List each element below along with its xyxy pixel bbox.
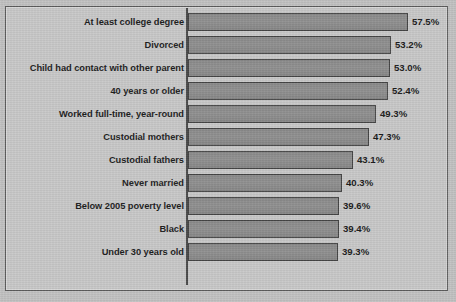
bar bbox=[188, 36, 391, 54]
bar-category-label: Below 2005 poverty level bbox=[75, 197, 184, 215]
bar-category-label: At least college degree bbox=[84, 13, 184, 31]
bar-chart-figure: At least college degree57.5%Divorced53.2… bbox=[0, 0, 456, 302]
bar-track bbox=[188, 105, 376, 123]
bar-track bbox=[188, 36, 391, 54]
bar-track bbox=[188, 128, 369, 146]
bar-row: Worked full-time, year-round49.3% bbox=[0, 105, 456, 128]
bar-row: Divorced53.2% bbox=[0, 36, 456, 59]
bar bbox=[188, 82, 388, 100]
bar bbox=[188, 13, 408, 31]
bar bbox=[188, 151, 353, 169]
bar-track bbox=[188, 243, 338, 261]
bar-row: Black39.4% bbox=[0, 220, 456, 243]
category-axis-line bbox=[186, 8, 188, 285]
bar-value-label: 43.1% bbox=[357, 151, 384, 169]
bar-value-label: 47.3% bbox=[373, 128, 400, 146]
bar-value-label: 53.2% bbox=[395, 36, 422, 54]
bar-value-label: 40.3% bbox=[346, 174, 373, 192]
bar-row: Custodial fathers43.1% bbox=[0, 151, 456, 174]
bar-value-label: 39.6% bbox=[343, 197, 370, 215]
bar-track bbox=[188, 174, 342, 192]
bar-track bbox=[188, 151, 353, 169]
bar-category-label: Under 30 years old bbox=[102, 243, 184, 261]
bar-track bbox=[188, 82, 388, 100]
bar-category-label: Black bbox=[159, 220, 184, 238]
bar-value-label: 52.4% bbox=[392, 82, 419, 100]
bar-row: 40 years or older52.4% bbox=[0, 82, 456, 105]
bar bbox=[188, 197, 339, 215]
bar bbox=[188, 128, 369, 146]
bars-area: At least college degree57.5%Divorced53.2… bbox=[0, 0, 456, 302]
bar bbox=[188, 174, 342, 192]
bar-row: Never married40.3% bbox=[0, 174, 456, 197]
bar bbox=[188, 105, 376, 123]
bar-track bbox=[188, 13, 408, 31]
bar-category-label: Child had contact with other parent bbox=[30, 59, 184, 77]
bar-category-label: Custodial mothers bbox=[103, 128, 184, 146]
bar-category-label: Worked full-time, year-round bbox=[59, 105, 184, 123]
bar-category-label: Divorced bbox=[145, 36, 184, 54]
bar-track bbox=[188, 59, 390, 77]
bar-track bbox=[188, 220, 339, 238]
bar bbox=[188, 243, 338, 261]
bar-value-label: 57.5% bbox=[412, 13, 439, 31]
bar bbox=[188, 59, 390, 77]
bar-category-label: Never married bbox=[122, 174, 184, 192]
bar-value-label: 39.3% bbox=[342, 243, 369, 261]
bar-row: Below 2005 poverty level39.6% bbox=[0, 197, 456, 220]
bar-row: Under 30 years old39.3% bbox=[0, 243, 456, 266]
bar-track bbox=[188, 197, 339, 215]
bar-value-label: 53.0% bbox=[394, 59, 421, 77]
bar-value-label: 49.3% bbox=[380, 105, 407, 123]
bar-category-label: Custodial fathers bbox=[109, 151, 184, 169]
bar-value-label: 39.4% bbox=[343, 220, 370, 238]
bar-row: Child had contact with other parent53.0% bbox=[0, 59, 456, 82]
bar bbox=[188, 220, 339, 238]
bar-row: Custodial mothers47.3% bbox=[0, 128, 456, 151]
bar-category-label: 40 years or older bbox=[110, 82, 184, 100]
bar-row: At least college degree57.5% bbox=[0, 13, 456, 36]
